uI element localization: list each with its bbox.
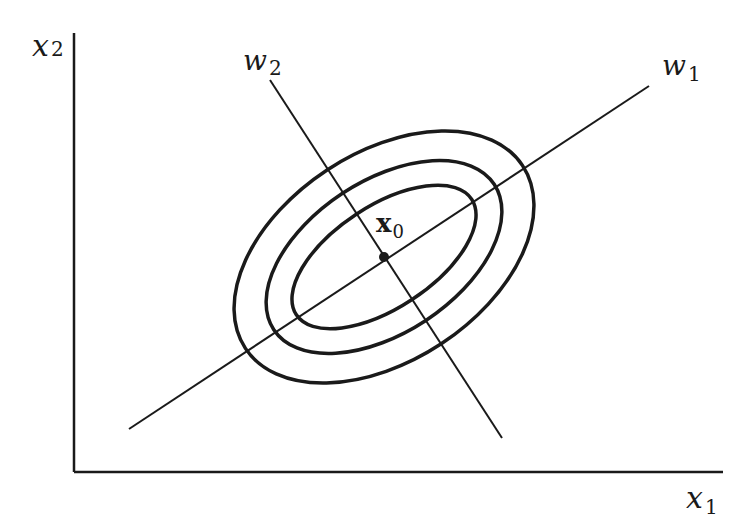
y-axis-label: x2: [32, 28, 64, 63]
center-point: [379, 252, 389, 262]
w2-label: w2: [243, 44, 282, 80]
w1-label: w1: [662, 49, 701, 86]
x-axis-label: x1: [686, 480, 718, 519]
center-label: x0: [376, 208, 404, 242]
w1-axis-line: [129, 86, 649, 429]
diagram-canvas: x2 x1 w2 w1 x0: [0, 0, 751, 532]
